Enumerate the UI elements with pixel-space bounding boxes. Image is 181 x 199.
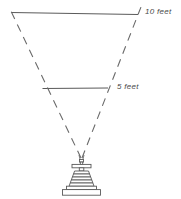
upper-distance-label: 10 feet: [145, 8, 172, 16]
left-dashed-ray: [9, 7, 81, 158]
lower-distance-label: 5 feet: [117, 83, 139, 91]
lower-measure-line: [43, 88, 109, 89]
upper-measure-line: [11, 13, 138, 15]
stepped-cone-speaker-icon: [63, 155, 101, 195]
diagram-canvas: 10 feet 5 feet: [0, 0, 181, 199]
diagram-svg: [0, 0, 181, 199]
